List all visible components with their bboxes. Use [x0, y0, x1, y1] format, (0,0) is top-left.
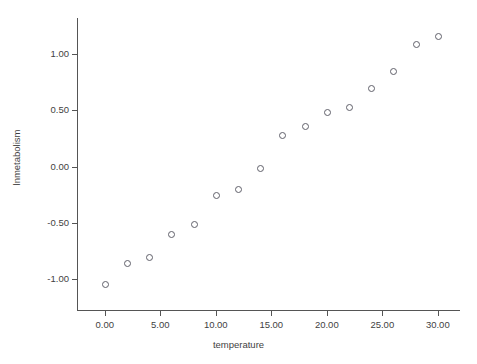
x-tick-label: 5.00	[135, 320, 185, 330]
y-tick-label: 1.00	[29, 49, 69, 59]
x-tick-mark	[105, 311, 106, 316]
y-tick-label: -1.00	[29, 274, 69, 284]
data-point	[302, 123, 309, 130]
data-point	[191, 221, 198, 228]
x-tick-label: 25.00	[357, 320, 407, 330]
x-tick-label: 0.00	[80, 320, 130, 330]
data-point	[324, 109, 331, 116]
x-tick-label: 15.00	[246, 320, 296, 330]
y-tick-mark	[72, 279, 77, 280]
y-axis-title: lnmetabolism	[11, 98, 22, 218]
x-tick-mark	[438, 311, 439, 316]
x-tick-mark	[382, 311, 383, 316]
data-point	[435, 33, 442, 40]
data-point	[368, 85, 375, 92]
y-tick-mark	[72, 110, 77, 111]
x-tick-label: 20.00	[302, 320, 352, 330]
y-tick-mark	[72, 54, 77, 55]
x-axis-spine	[77, 310, 460, 311]
data-point	[124, 260, 131, 267]
data-point	[213, 192, 220, 199]
x-tick-mark	[216, 311, 217, 316]
data-point	[102, 281, 109, 288]
y-tick-mark	[72, 223, 77, 224]
x-tick-mark	[160, 311, 161, 316]
x-tick-label: 30.00	[413, 320, 463, 330]
y-tick-label: 0.50	[29, 105, 69, 115]
data-point	[257, 165, 264, 172]
x-tick-mark	[327, 311, 328, 316]
y-tick-label: 0.00	[29, 162, 69, 172]
data-point	[146, 254, 153, 261]
x-tick-label: 10.00	[191, 320, 241, 330]
x-tick-mark	[271, 311, 272, 316]
y-tick-mark	[72, 167, 77, 168]
plot-area	[77, 18, 460, 310]
y-tick-label: -0.50	[29, 218, 69, 228]
data-point	[346, 104, 353, 111]
data-point	[413, 41, 420, 48]
x-axis-title: temperature	[0, 339, 477, 350]
chart-figure: -1.00-0.500.000.501.00 0.005.0010.0015.0…	[0, 0, 477, 364]
